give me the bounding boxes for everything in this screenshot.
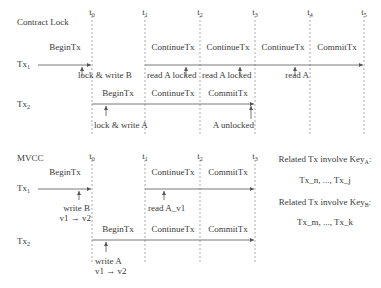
tx2-phase-commit: CommitTx bbox=[208, 225, 248, 234]
tx2-label: Tx2 bbox=[17, 237, 30, 247]
time-mark-t1: t1 bbox=[142, 8, 148, 18]
tx1-phase-continue-1: ContinueTx bbox=[152, 43, 195, 52]
tx2-phase-begin: BeginTx bbox=[102, 89, 134, 98]
tx2-phase-continue: ContinueTx bbox=[152, 225, 195, 234]
tx1-phase-continue-3: ContinueTx bbox=[262, 43, 305, 52]
tx1-label: Tx1 bbox=[17, 184, 30, 194]
tx2-event-a-unlocked: A unlocked bbox=[213, 121, 254, 130]
tx2-event-lock-write-a: lock & write A bbox=[94, 121, 148, 130]
tx1-event-read-a-v1: read A_v1 bbox=[148, 204, 185, 213]
time-mark-t5: t5 bbox=[361, 8, 367, 18]
time-mark-t2: t2 bbox=[197, 152, 203, 162]
tx2-phase-continue: ContinueTx bbox=[152, 89, 195, 98]
tx1-phase-continue-2: ContinueTx bbox=[207, 43, 250, 52]
tx1-event-read-a: read A bbox=[285, 71, 309, 80]
tx2-event-version: v1 → v2 bbox=[95, 267, 127, 276]
time-mark-t0: t0 bbox=[89, 152, 95, 162]
tx1-event-version: v1 → v2 bbox=[60, 214, 92, 223]
section-title: Contract Lock bbox=[17, 18, 69, 27]
time-mark-t3: t3 bbox=[252, 152, 258, 162]
tx2-phase-begin: BeginTx bbox=[102, 225, 134, 234]
tx2-phase-commit: CommitTx bbox=[208, 89, 248, 98]
tx2-label: Tx2 bbox=[17, 100, 30, 110]
tx1-phase-begin: BeginTx bbox=[49, 168, 81, 177]
tx1-label: Tx1 bbox=[17, 60, 30, 70]
tx1-event-read-a-locked-1: read A locked bbox=[147, 71, 196, 80]
related-key-b-txs: Tx_m, ..., Tx_k bbox=[297, 218, 353, 227]
tx1-event-write-b: write B bbox=[63, 204, 90, 213]
tx1-phase-continue: ContinueTx bbox=[152, 168, 195, 177]
time-mark-t2: t2 bbox=[197, 8, 203, 18]
time-mark-t1: t1 bbox=[142, 152, 148, 162]
time-mark-t3: t3 bbox=[252, 8, 258, 18]
tx1-phase-begin: BeginTx bbox=[49, 43, 81, 52]
section-title: MVCC bbox=[17, 154, 44, 163]
time-mark-t4: t4 bbox=[307, 8, 313, 18]
tx2-event-write-a: write A bbox=[95, 257, 122, 266]
tx1-phase-commit: CommitTx bbox=[208, 168, 248, 177]
tx1-event-read-a-locked-2: read A locked bbox=[202, 71, 251, 80]
tx1-event-lock-write-b: lock & write B bbox=[78, 71, 132, 80]
related-key-b-label: Related Tx involve KeyB: bbox=[279, 198, 372, 208]
related-key-a-label: Related Tx involve KeyA: bbox=[279, 155, 372, 165]
related-key-a-txs: Tx_n, ..., Tx_j bbox=[299, 176, 351, 185]
time-mark-t0: t0 bbox=[89, 8, 95, 18]
tx1-phase-commit: CommitTx bbox=[317, 43, 357, 52]
